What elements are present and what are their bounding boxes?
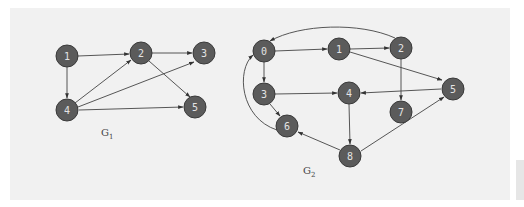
- node-g2-7: 7: [390, 101, 412, 123]
- edge-g2-0-1: [275, 49, 327, 51]
- svg-text:1: 1: [64, 51, 70, 62]
- edge-g1-1-2: [78, 54, 129, 56]
- svg-text:5: 5: [192, 102, 198, 113]
- graph-label-g2: G2: [303, 165, 315, 179]
- svg-text:1: 1: [336, 44, 342, 55]
- node-g1-2: 2: [130, 42, 152, 64]
- node-g1-1: 1: [56, 45, 78, 67]
- edge-g2-2-0: [270, 27, 395, 41]
- svg-text:4: 4: [346, 88, 352, 99]
- edge-g2-3-6: [270, 104, 280, 116]
- svg-text:3: 3: [261, 89, 267, 100]
- svg-text:2: 2: [398, 43, 404, 54]
- figure-page: 1 2 3 4 5 0: [0, 0, 524, 207]
- node-g2-4: 4: [338, 82, 360, 104]
- node-g2-5: 5: [442, 78, 464, 100]
- node-g2-8: 8: [339, 145, 361, 167]
- graph-g2-nodes: 0 1 2 3 4 5 6: [253, 37, 464, 167]
- svg-text:5: 5: [450, 84, 456, 95]
- edge-g1-4-5: [79, 107, 183, 110]
- edge-g2-4-8: [349, 104, 350, 144]
- svg-text:6: 6: [284, 121, 290, 132]
- svg-text:0: 0: [261, 46, 267, 57]
- svg-text:4: 4: [64, 105, 70, 116]
- graph-label-g1: G1: [101, 127, 113, 141]
- edge-g2-8-6: [298, 132, 340, 150]
- graph-g1-nodes: 1 2 3 4 5: [56, 42, 215, 121]
- svg-text:8: 8: [347, 151, 353, 162]
- node-g1-4: 4: [56, 99, 78, 121]
- graph-diagram: 1 2 3 4 5 0: [0, 0, 524, 207]
- node-g2-0: 0: [253, 40, 275, 62]
- edge-g1-4-3: [78, 62, 194, 107]
- node-g2-2: 2: [390, 37, 412, 59]
- node-g2-6: 6: [276, 115, 298, 137]
- svg-text:2: 2: [138, 48, 144, 59]
- node-g1-3: 3: [193, 42, 215, 64]
- svg-text:7: 7: [398, 107, 404, 118]
- graph-g1-edges: [67, 53, 194, 110]
- node-g2-3: 3: [253, 83, 275, 105]
- svg-text:3: 3: [201, 48, 207, 59]
- node-g1-5: 5: [184, 96, 206, 118]
- edge-g2-1-2: [350, 48, 389, 49]
- edge-g1-4-2: [75, 60, 131, 103]
- node-g2-1: 1: [328, 38, 350, 60]
- edge-g2-3-4: [275, 93, 337, 94]
